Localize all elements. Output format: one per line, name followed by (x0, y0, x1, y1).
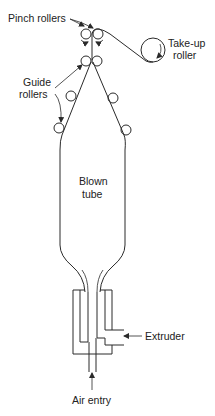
extruder-label: Extruder (145, 330, 185, 342)
take-up-label-1: Take-up (168, 37, 206, 49)
guide-rollers-arrow-up (55, 65, 82, 88)
blown-tube-label-2: tube (82, 188, 103, 200)
take-up-roller (141, 38, 165, 62)
guide-rollers-label-2: rollers (19, 88, 48, 100)
die (73, 290, 124, 372)
blown-tube (60, 135, 125, 292)
blown-tube-label-1: Blown (79, 175, 108, 187)
take-up-label-2: roller (173, 49, 197, 61)
blown-film-diagram: Pinch rollers Take-up roller Guide rolle… (0, 0, 215, 416)
guide-rollers-arrow-down (55, 94, 61, 122)
pinch-rollers-label: Pinch rollers (8, 12, 66, 24)
side-guide-rollers (54, 91, 131, 135)
air-entry-label: Air entry (72, 394, 112, 406)
guide-rollers-label-1: Guide (23, 76, 51, 88)
